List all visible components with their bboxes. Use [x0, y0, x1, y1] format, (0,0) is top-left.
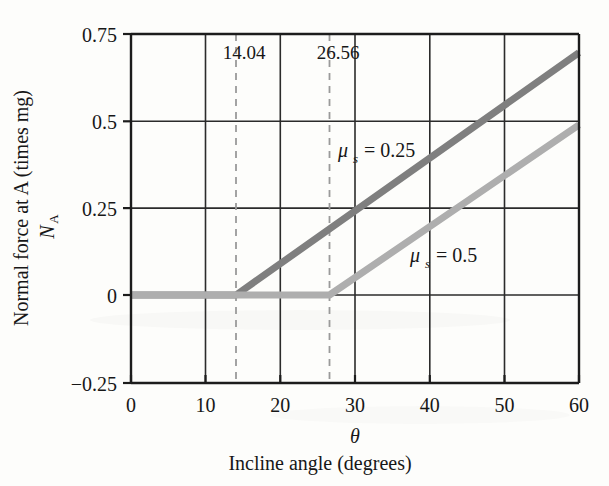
x-tick-label-20: 20	[270, 394, 290, 416]
series-label-mu-subscript-2: s	[425, 256, 430, 271]
x-tick-label-60: 60	[569, 394, 589, 416]
y-axis-symbol-subscript-A: A	[46, 214, 61, 224]
y-tick-label-0: 0	[107, 285, 117, 307]
scan-artifact	[90, 310, 510, 330]
series-label-mu-subscript-1: s	[353, 151, 358, 166]
y-tick-label-0.25: 0.25	[82, 198, 117, 220]
series-label-mu-value-2: = 0.5	[436, 244, 477, 266]
normal-force-vs-incline-angle-chart: 0.75 0.5 0.25 0 −0.25 0 10 20 30 40 50 6…	[0, 0, 609, 486]
y-axis-title: Normal force at A (times mg)	[10, 90, 33, 326]
x-tick-label-0: 0	[126, 394, 136, 416]
y-axis-symbol-N: N	[36, 224, 58, 240]
x-tick-label-40: 40	[420, 394, 440, 416]
series-label-mu-value-1: = 0.25	[364, 139, 415, 161]
x-axis-title: Incline angle (degrees)	[228, 452, 411, 475]
series-label-mu-symbol-1: μ	[337, 139, 348, 162]
x-axis-symbol-theta: θ	[350, 425, 360, 447]
y-tick-label--0.25: −0.25	[71, 373, 117, 395]
series-label-mu-symbol-2: μ	[409, 244, 420, 267]
x-tick-label-50: 50	[495, 394, 515, 416]
chart-page: 0.75 0.5 0.25 0 −0.25 0 10 20 30 40 50 6…	[0, 0, 609, 486]
annotation-label-26.56: 26.56	[317, 42, 360, 63]
x-tick-label-10: 10	[196, 394, 216, 416]
y-tick-label-0.75: 0.75	[82, 24, 117, 46]
y-tick-label-0.5: 0.5	[92, 111, 117, 133]
annotation-label-14.04: 14.04	[223, 42, 266, 63]
x-tick-label-30: 30	[345, 394, 365, 416]
